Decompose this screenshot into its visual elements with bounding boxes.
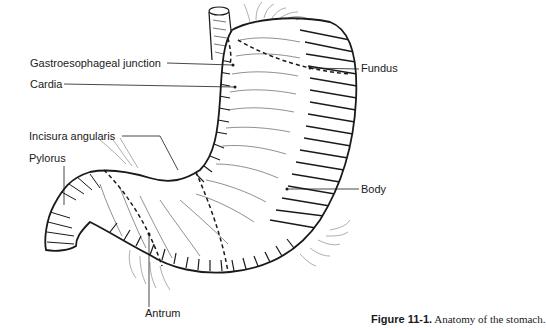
label-incisura-angularis: Incisura angularis <box>29 131 115 142</box>
figure-title: Anatomy of the stomach. <box>434 313 545 325</box>
figure-number: Figure 11-1. <box>371 313 432 325</box>
label-pylorus: Pylorus <box>29 153 66 164</box>
label-fundus: Fundus <box>361 63 398 74</box>
label-body: Body <box>361 184 386 195</box>
label-antrum: Antrum <box>145 308 180 319</box>
label-gastroesophageal-junction: Gastroesophageal junction <box>30 58 161 69</box>
figure-caption: Figure 11-1. Anatomy of the stomach. <box>371 313 546 325</box>
label-cardia: Cardia <box>30 79 62 90</box>
